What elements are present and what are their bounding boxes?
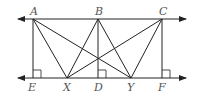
- point-label-b: B: [94, 5, 103, 18]
- point-label-a: A: [29, 5, 38, 18]
- segment-bx: [67, 19, 98, 78]
- right-angle-mark-e: [33, 70, 41, 78]
- point-label-d: D: [93, 81, 103, 94]
- point-label-y: Y: [127, 81, 136, 94]
- segment-ax: [33, 19, 67, 78]
- geometry-diagram: ABCEXDYF: [0, 0, 201, 97]
- point-label-f: F: [157, 81, 166, 94]
- segment-cy: [131, 19, 162, 78]
- point-label-x: X: [62, 81, 72, 94]
- right-angle-mark-f: [162, 70, 170, 78]
- point-label-c: C: [159, 5, 168, 18]
- diagram-canvas: ABCEXDYF: [0, 0, 201, 97]
- point-label-e: E: [27, 81, 36, 94]
- right-angle-mark-d: [98, 70, 106, 78]
